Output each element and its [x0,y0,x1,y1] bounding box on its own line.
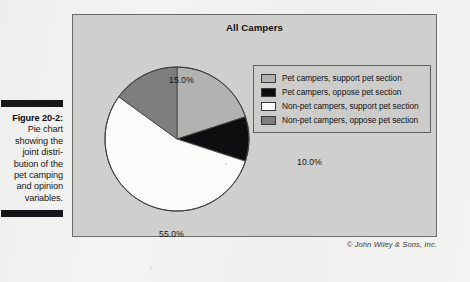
legend-item: Non-pet campers, oppose pet section [261,113,424,127]
caption-line: joint distri- [0,147,63,158]
caption-line: variables. [0,193,63,204]
pie-label-10: 10.0% [297,157,322,167]
figure-caption: Figure 20-2: Pie chart showing the joint… [0,100,66,217]
legend-item-label: Non-pet campers, oppose pet section [282,115,418,125]
caption-line: and opinion [0,181,63,192]
caption-line: showing the [0,136,63,147]
pie-label-55: 55.0% [159,229,184,239]
legend-swatch-icon [261,102,276,111]
caption-line: bution of the [0,159,63,170]
pie-label-15: 15.0% [169,75,194,85]
figure-caption-text: Pie chart showing the joint distri- buti… [0,124,66,204]
legend-swatch-icon [261,74,276,83]
page-speck [225,163,227,165]
page-speck [150,266,152,269]
chart-title: All Campers [73,22,436,33]
pie-chart-svg [101,63,253,215]
caption-line: pet camping [0,170,63,181]
legend-item: Non-pet campers, support pet section [261,99,424,113]
legend-item-label: Non-pet campers, support pet section [282,101,419,111]
copyright-notice: © John Wiley & Sons, Inc. [0,240,437,249]
legend-swatch-icon [261,116,276,125]
chart-container: All Campers 20.0% 10.0% 55.0% 15.0% Pet … [72,14,437,237]
figure-number-label: Figure 20-2: [0,113,66,124]
legend-item: Pet campers, support pet section [261,71,424,85]
legend-item-label: Pet campers, oppose pet section [282,87,401,97]
legend-item: Pet campers, oppose pet section [261,85,424,99]
legend-item-label: Pet campers, support pet section [282,73,402,83]
pie-chart [101,63,253,215]
caption-line: Pie chart [0,124,63,135]
caption-rule-top [1,100,63,107]
chart-legend: Pet campers, support pet section Pet cam… [253,65,431,133]
legend-swatch-icon [261,88,276,97]
caption-rule-bottom [1,210,63,217]
